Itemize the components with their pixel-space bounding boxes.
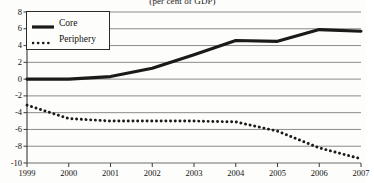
chart-legend: Core Periphery <box>26 11 110 50</box>
y-tick-label: -6 <box>0 125 26 134</box>
x-tick-label: 2007 <box>341 169 374 178</box>
legend-item-periphery: Periphery <box>32 32 96 46</box>
x-tick-label: 2003 <box>174 169 214 178</box>
y-tick-label: -10 <box>0 159 26 168</box>
y-tick-label: 4 <box>0 41 26 50</box>
x-tick-label: 2000 <box>49 169 89 178</box>
legend-label-periphery: Periphery <box>59 34 96 44</box>
y-tick-label: -2 <box>0 91 26 100</box>
y-tick-label: -8 <box>0 142 26 151</box>
x-tick-label: 2004 <box>216 169 256 178</box>
legend-swatch-core-solid-line <box>32 18 54 28</box>
legend-label-core: Core <box>59 18 77 28</box>
x-tick-label: 2002 <box>132 169 172 178</box>
y-tick-label: 8 <box>0 8 26 17</box>
y-tick-label: -4 <box>0 108 26 117</box>
y-tick-label: 2 <box>0 58 26 67</box>
legend-item-core: Core <box>32 16 77 30</box>
x-tick-label: 1999 <box>7 169 47 178</box>
x-tick-label: 2006 <box>299 169 339 178</box>
x-tick-label: 2005 <box>258 169 298 178</box>
x-tick-label: 2001 <box>91 169 131 178</box>
legend-swatch-periphery-dotted-line <box>32 34 54 44</box>
y-tick-label: 6 <box>0 24 26 33</box>
y-tick-label: 0 <box>0 75 26 84</box>
